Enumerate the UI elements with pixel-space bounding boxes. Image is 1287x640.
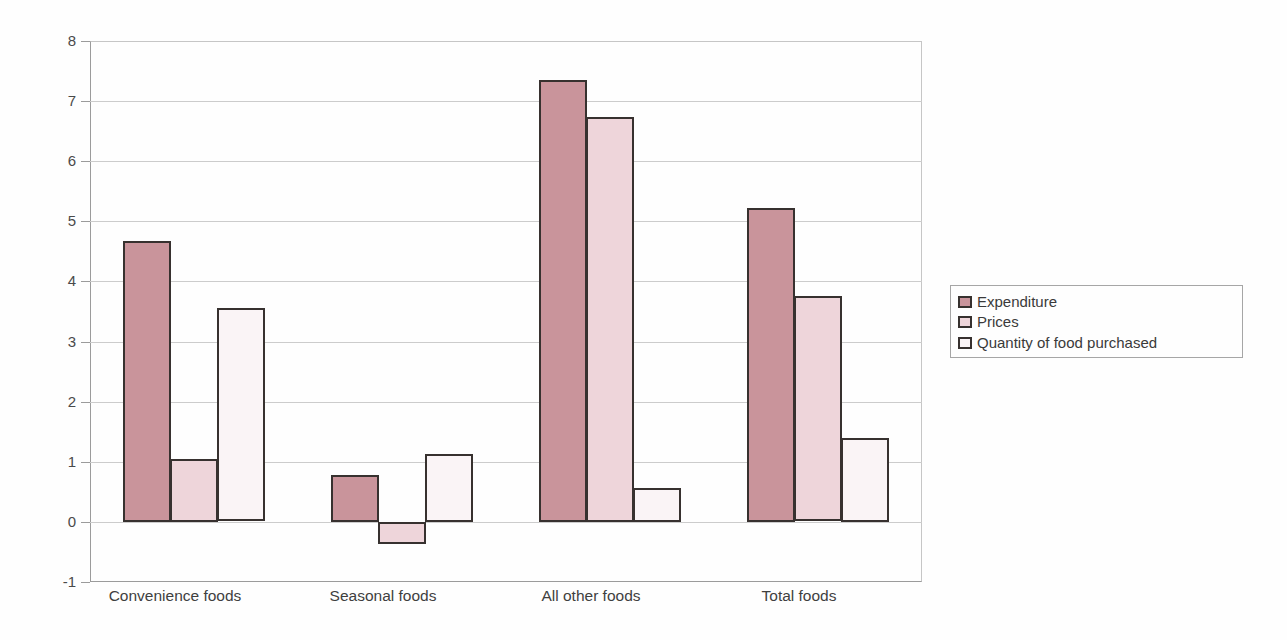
gridline-0 (90, 522, 922, 523)
bar-expenditure-total-foods (747, 208, 795, 522)
bar-prices-total-foods (794, 296, 842, 521)
y-tick-mark-6 (81, 161, 90, 162)
x-axis-label-total-foods: Total foods (762, 587, 837, 605)
y-tick-mark--1 (81, 582, 90, 583)
gridline-5 (90, 221, 922, 222)
x-axis-label-convenience-foods: Convenience foods (109, 587, 242, 605)
x-axis-label-seasonal-foods: Seasonal foods (330, 587, 437, 605)
bar-expenditure-seasonal-foods (331, 475, 379, 522)
y-tick-mark-7 (81, 101, 90, 102)
y-tick-mark-3 (81, 342, 90, 343)
y-tick-mark-5 (81, 221, 90, 222)
gridline-7 (90, 101, 922, 102)
y-axis-label-0: 0 (32, 514, 76, 529)
legend-box: Expenditure Prices Quantity of food purc… (950, 285, 1243, 358)
chart-canvas: Expenditure Prices Quantity of food purc… (0, 0, 1287, 640)
bar-prices-all-other-foods (586, 117, 634, 522)
bar-expenditure-convenience-foods (123, 241, 171, 522)
quantity-swatch-icon (958, 337, 972, 349)
y-axis-label-2: 2 (32, 394, 76, 409)
bar-quantity-of-food-purchased-all-other-foods (633, 488, 681, 522)
legend-label-quantity: Quantity of food purchased (977, 335, 1157, 351)
bar-quantity-of-food-purchased-total-foods (841, 438, 889, 522)
bar-expenditure-all-other-foods (539, 80, 587, 522)
y-axis-label-3: 3 (32, 334, 76, 349)
y-axis-label-8: 8 (32, 33, 76, 48)
y-tick-mark-8 (81, 41, 90, 42)
prices-swatch-icon (958, 316, 972, 328)
legend-item-prices: Prices (958, 312, 1234, 332)
y-axis-label-7: 7 (32, 93, 76, 108)
bar-quantity-of-food-purchased-convenience-foods (217, 308, 265, 521)
bar-quantity-of-food-purchased-seasonal-foods (425, 454, 473, 522)
bar-prices-seasonal-foods (378, 522, 426, 544)
bar-prices-convenience-foods (170, 459, 218, 522)
legend-item-quantity: Quantity of food purchased (958, 333, 1234, 353)
y-tick-mark-0 (81, 522, 90, 523)
y-axis-label--1: -1 (32, 574, 76, 589)
y-axis-label-5: 5 (32, 213, 76, 228)
y-axis-label-4: 4 (32, 273, 76, 288)
y-tick-mark-4 (81, 281, 90, 282)
gridline-6 (90, 161, 922, 162)
legend-label-expenditure: Expenditure (977, 294, 1057, 310)
y-tick-mark-1 (81, 462, 90, 463)
legend-item-expenditure: Expenditure (958, 292, 1234, 312)
x-axis-label-all-other-foods: All other foods (541, 587, 640, 605)
y-axis-label-1: 1 (32, 454, 76, 469)
y-axis-label-6: 6 (32, 153, 76, 168)
expenditure-swatch-icon (958, 296, 972, 308)
gridline-4 (90, 281, 922, 282)
legend-label-prices: Prices (977, 314, 1019, 330)
y-tick-mark-2 (81, 402, 90, 403)
